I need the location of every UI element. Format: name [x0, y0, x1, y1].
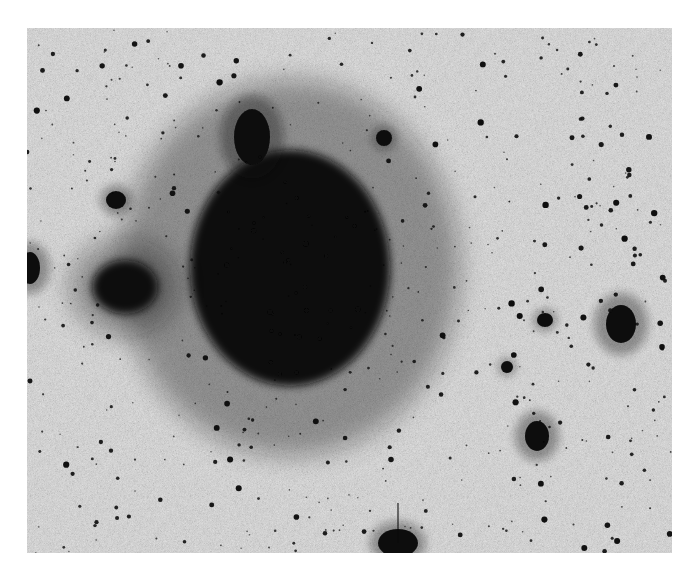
astronomical-plate [27, 28, 672, 553]
star-right-mid2 [498, 358, 516, 376]
left-companion-galaxy [70, 238, 180, 336]
right-galaxy-lower [515, 411, 559, 461]
star-diamond [372, 126, 396, 150]
star-left-upper [100, 185, 132, 215]
galaxy-northern-lobe [220, 95, 284, 179]
star-field [27, 28, 672, 553]
